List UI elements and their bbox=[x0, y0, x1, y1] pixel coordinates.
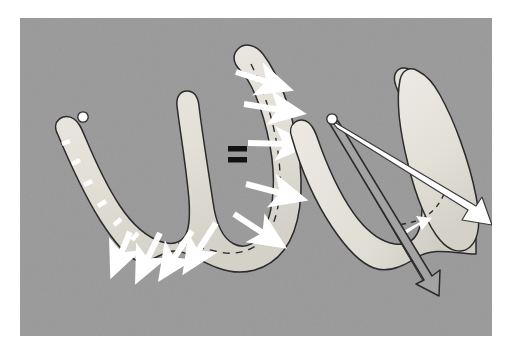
diagram-figure bbox=[0, 0, 511, 356]
diagram-panel bbox=[20, 18, 492, 336]
right-figure-knob-marker bbox=[327, 114, 337, 124]
diagram-canvas bbox=[20, 18, 492, 336]
left-arrow-3 bbox=[248, 143, 288, 144]
left-figure-knob-marker bbox=[78, 112, 88, 122]
